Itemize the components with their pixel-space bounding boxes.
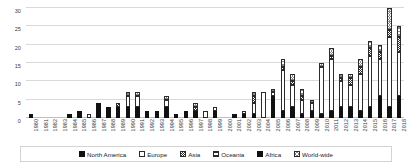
segment-world-wide (281, 59, 285, 66)
bars-layer (26, 8, 404, 118)
x-tick-label-2000: 2000 (227, 119, 233, 131)
segment-north-america (77, 111, 81, 118)
bar-2007 (290, 74, 294, 118)
segment-europe (397, 52, 401, 96)
segment-north-america (164, 107, 168, 118)
x-tick-label-2009: 2009 (314, 119, 320, 131)
segment-north-america (271, 96, 275, 118)
segment-world-wide (358, 59, 362, 66)
x-tick-label-2017: 2017 (391, 119, 397, 131)
bar-1991 (135, 92, 139, 118)
solid-black-swatch (257, 151, 263, 157)
segment-asia (358, 67, 362, 74)
x-tick-label-2015: 2015 (372, 119, 378, 131)
segment-asia (387, 30, 391, 37)
horizontal-lines-swatch (213, 151, 219, 157)
checker-swatch (180, 151, 186, 157)
legend-label: Africa (265, 151, 281, 158)
segment-asia (378, 52, 382, 59)
segment-north-america (387, 107, 391, 118)
x-tick-label-2018: 2018 (401, 119, 407, 131)
x-tick-label-1997: 1997 (198, 119, 204, 131)
bar-2014 (358, 59, 362, 118)
x-tick-label-2007: 2007 (295, 119, 301, 131)
bar-2004 (261, 92, 265, 118)
chart-legend: North AmericaEuropeAsiaOceaniaAfricaWorl… (20, 146, 392, 162)
segment-world-wide (397, 26, 401, 37)
legend-item-oceania[interactable]: Oceania (213, 151, 244, 158)
legend-label: Asia (188, 151, 200, 158)
outline-white-swatch (139, 151, 145, 157)
segment-europe (348, 85, 352, 107)
bar-2003 (252, 92, 256, 118)
x-tick-label-2016: 2016 (382, 119, 388, 131)
bar-2015 (368, 41, 372, 118)
segment-north-america (329, 111, 333, 118)
bar-2006 (281, 59, 285, 118)
x-tick-label-2005: 2005 (275, 119, 281, 131)
segment-asia (368, 48, 372, 55)
x-tick-label-2008: 2008 (304, 119, 310, 131)
x-tick-label-1984: 1984 (72, 119, 78, 131)
segment-north-america (339, 107, 343, 118)
segment-north-america (155, 111, 159, 118)
x-tick-label-1998: 1998 (207, 119, 213, 131)
segment-europe (339, 81, 343, 107)
x-tick-label-1990: 1990 (130, 119, 136, 131)
segment-world-wide (387, 8, 391, 30)
segment-world-wide (368, 41, 372, 48)
x-tick-label-2012: 2012 (343, 119, 349, 131)
segment-north-america (310, 111, 314, 118)
legend-item-asia[interactable]: Asia (180, 151, 200, 158)
legend-item-north-america[interactable]: North America (79, 151, 126, 158)
x-tick-label-2004: 2004 (265, 119, 271, 131)
bar-1999 (213, 107, 217, 118)
solid-black-swatch (79, 151, 85, 157)
segment-europe (164, 100, 168, 107)
legend-item-africa[interactable]: Africa (257, 151, 281, 158)
segment-north-america (378, 96, 382, 118)
bar-2010 (319, 63, 323, 118)
cross-hatch-swatch (294, 151, 300, 157)
segment-north-america (126, 107, 130, 118)
x-tick-label-1999: 1999 (217, 119, 223, 131)
y-axis: 051015202530 (0, 8, 24, 118)
segment-north-america (116, 107, 120, 118)
segment-north-america (358, 111, 362, 118)
bar-2009 (310, 100, 314, 118)
segment-europe (135, 96, 139, 107)
segment-europe (378, 59, 382, 96)
x-tick-label-1986: 1986 (91, 119, 97, 131)
segment-europe (387, 37, 391, 107)
x-tick-label-1989: 1989 (120, 119, 126, 131)
x-tick-label-2006: 2006 (285, 119, 291, 131)
segment-europe (281, 70, 285, 110)
x-tick-label-2011: 2011 (333, 119, 339, 131)
bar-1985 (77, 111, 81, 118)
legend-item-world-wide[interactable]: World-wide (294, 151, 333, 158)
segment-north-america (184, 111, 188, 118)
legend-label: World-wide (302, 151, 333, 158)
segment-north-america (106, 107, 110, 118)
x-tick-label-2003: 2003 (256, 119, 262, 131)
legend-label: Oceania (221, 151, 244, 158)
segment-europe (300, 100, 304, 115)
bar-1987 (96, 103, 100, 118)
segment-asia (348, 78, 352, 85)
bar-2005 (271, 89, 275, 118)
bar-1989 (116, 103, 120, 118)
bar-2011 (329, 48, 333, 118)
segment-north-america (397, 96, 401, 118)
segment-europe (203, 111, 207, 118)
segment-north-america (135, 107, 139, 118)
x-axis: 1980198119821983198419851986198719881989… (26, 118, 404, 144)
bar-1997 (193, 103, 197, 118)
segment-north-america (290, 107, 294, 118)
segment-europe (252, 103, 256, 114)
segment-north-america (193, 111, 197, 118)
bar-1998 (203, 111, 207, 118)
legend-item-europe[interactable]: Europe (139, 151, 167, 158)
plot-area (26, 8, 404, 118)
x-tick-label-1982: 1982 (52, 119, 58, 131)
x-tick-label-1992: 1992 (149, 119, 155, 131)
